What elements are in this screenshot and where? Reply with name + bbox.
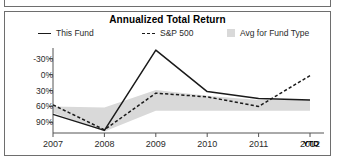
y-axis-label: 90% xyxy=(36,117,53,127)
legend-label-sp500: S&P 500 xyxy=(160,28,193,38)
x-axis-label: 2010 xyxy=(197,139,217,149)
annualized-total-return-panel: Annualized Total Return This Fund S&P 50… xyxy=(4,11,331,156)
legend-item-this-fund: This Fund xyxy=(38,28,94,38)
legend-item-sp500: S&P 500 xyxy=(142,28,193,38)
x-axis-label: 2009 xyxy=(146,139,166,149)
avg-for-fund-type-band xyxy=(53,90,310,131)
y-axis-label: 60% xyxy=(36,101,53,111)
plot-area: 90%60%30%0%-30% 200720082009201020112012… xyxy=(5,42,332,155)
x-axis-label: 2011 xyxy=(249,139,268,149)
chart-legend: This Fund S&P 500 Avg for Fund Type xyxy=(5,28,330,42)
x-axis-label: 2007 xyxy=(43,139,63,149)
solid-line-swatch-icon xyxy=(38,33,51,34)
ytd-label: YTD xyxy=(303,139,319,148)
band-swatch-icon xyxy=(227,29,235,37)
x-axis-label: 2008 xyxy=(94,139,114,149)
y-axis-label: 0% xyxy=(41,70,53,80)
chart-screenshot: Annualized Total Return This Fund S&P 50… xyxy=(0,0,338,165)
y-axis-label: -30% xyxy=(33,54,53,64)
page-title: Annualized Total Return xyxy=(5,14,330,25)
legend-item-avg-for-fund-type: Avg for Fund Type xyxy=(227,28,309,38)
dashed-line-swatch-icon xyxy=(142,33,155,34)
y-axis-label: 30% xyxy=(36,86,53,96)
legend-label-this-fund: This Fund xyxy=(56,28,94,38)
legend-label-avg-for-fund-type: Avg for Fund Type xyxy=(240,28,309,38)
adjacent-panel-edge xyxy=(4,0,331,7)
